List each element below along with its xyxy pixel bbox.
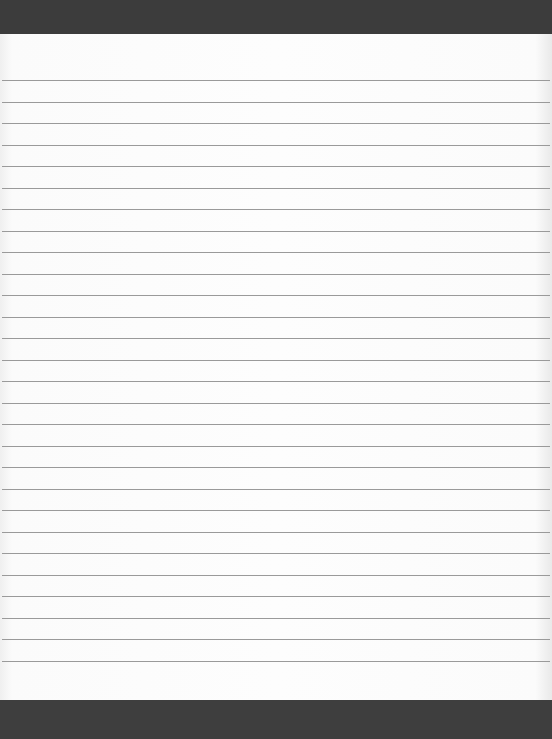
ruled-line (2, 510, 550, 511)
scanner-background-bottom (0, 700, 552, 739)
ruled-line (2, 661, 550, 662)
ruled-line (2, 166, 550, 167)
ruled-line (2, 360, 550, 361)
ruled-line (2, 338, 550, 339)
ruled-line (2, 575, 550, 576)
ruled-line (2, 188, 550, 189)
ruled-line (2, 231, 550, 232)
ruled-line (2, 381, 550, 382)
ruled-line (2, 252, 550, 253)
ruled-line (2, 403, 550, 404)
ruled-line (2, 80, 550, 81)
ruled-line (2, 209, 550, 210)
scanner-background-top (0, 0, 552, 34)
ruled-line (2, 446, 550, 447)
lined-paper-sheet (0, 34, 552, 700)
ruled-line (2, 553, 550, 554)
ruled-line (2, 532, 550, 533)
ruled-line (2, 489, 550, 490)
ruled-line (2, 639, 550, 640)
ruled-line (2, 317, 550, 318)
ruled-line (2, 618, 550, 619)
ruled-line (2, 596, 550, 597)
ruled-line (2, 145, 550, 146)
ruled-line (2, 123, 550, 124)
ruled-line (2, 274, 550, 275)
ruled-line (2, 102, 550, 103)
ruled-line (2, 424, 550, 425)
ruled-line (2, 295, 550, 296)
ruled-line (2, 467, 550, 468)
